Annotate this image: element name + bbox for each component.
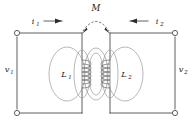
wiring-group — [17, 33, 175, 113]
label-inductor-left: L — [60, 69, 66, 79]
mutual-coupling-arc-icon — [82, 22, 110, 34]
label-inductor-right-sub: 2 — [127, 74, 132, 80]
label-voltage-right: v — [179, 64, 184, 74]
circuit-diagram: M i 1 i 2 v 1 v 2 L 1 L 2 — [0, 0, 192, 130]
label-current-right-sub: 2 — [159, 21, 164, 27]
terminal-node-icon-bottom-right[interactable] — [172, 110, 177, 115]
label-current-left-sub: 1 — [36, 21, 39, 27]
label-voltage-left: v — [5, 64, 10, 74]
magnetic-flux-loop-icon-left-outer — [49, 47, 85, 101]
magnetic-flux-loop-icon-center-inner — [89, 53, 104, 95]
terminal-node-icon-bottom-left[interactable] — [14, 110, 19, 115]
label-current-right: i — [156, 16, 159, 26]
label-voltage-right-sub: 2 — [183, 69, 188, 75]
current-arrow-left-group — [44, 18, 62, 23]
label-inductor-right: L — [120, 69, 126, 79]
label-inductor-left-sub: 1 — [68, 74, 71, 80]
mutual-inductance-schematic: M i 1 i 2 v 1 v 2 L 1 L 2 — [0, 0, 192, 130]
label-mutual-inductance: M — [91, 3, 101, 13]
current-arrow-right-group — [130, 18, 148, 23]
arrow-left-icon — [130, 18, 137, 23]
labels-group: M i 1 i 2 v 1 v 2 L 1 L 2 — [5, 3, 189, 80]
terminal-node-icon-top-right[interactable] — [172, 30, 177, 35]
label-current-left: i — [32, 16, 35, 26]
arrow-right-icon — [55, 18, 62, 23]
terminals-group — [14, 30, 177, 115]
magnetic-flux-loop-icon-center — [84, 48, 108, 100]
terminal-node-icon-top-left[interactable] — [14, 30, 19, 35]
label-voltage-left-sub: 1 — [10, 69, 13, 75]
